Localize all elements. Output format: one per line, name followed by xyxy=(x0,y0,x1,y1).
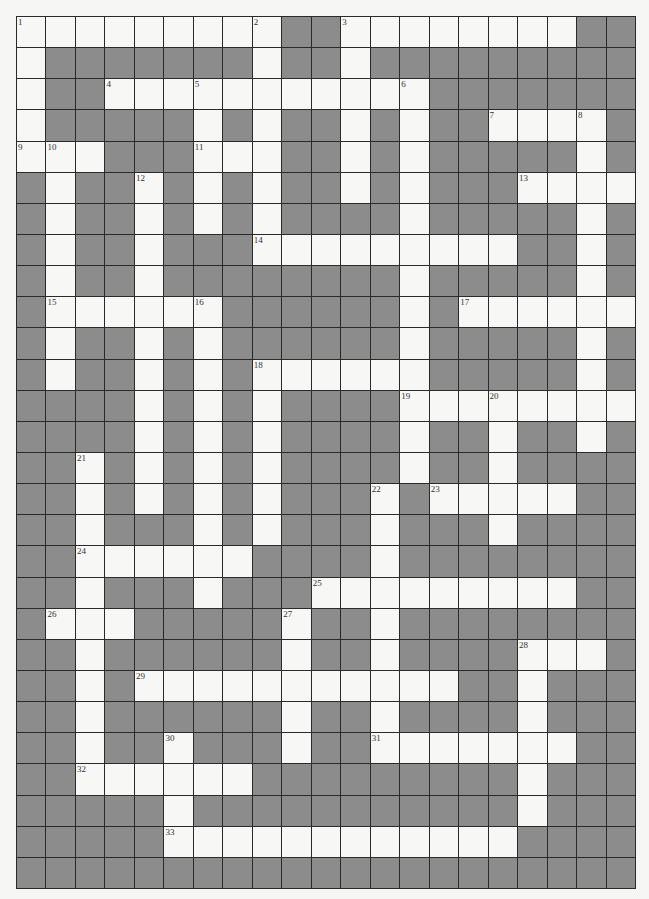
answer-cell[interactable] xyxy=(400,360,428,390)
answer-cell[interactable] xyxy=(105,297,133,327)
answer-cell[interactable] xyxy=(135,764,163,794)
answer-cell[interactable] xyxy=(489,453,517,483)
answer-cell[interactable] xyxy=(518,297,546,327)
answer-cell[interactable] xyxy=(518,484,546,514)
answer-cell[interactable] xyxy=(430,827,458,857)
answer-cell[interactable] xyxy=(253,48,281,78)
answer-cell[interactable] xyxy=(430,671,458,701)
answer-cell[interactable] xyxy=(489,422,517,452)
answer-cell[interactable] xyxy=(400,173,428,203)
answer-cell[interactable] xyxy=(400,422,428,452)
answer-cell[interactable] xyxy=(400,142,428,172)
answer-cell[interactable] xyxy=(548,578,576,608)
answer-cell[interactable] xyxy=(371,17,399,47)
answer-cell[interactable] xyxy=(341,671,369,701)
answer-cell[interactable] xyxy=(430,733,458,763)
answer-cell[interactable]: 24 xyxy=(76,546,104,576)
answer-cell[interactable] xyxy=(135,422,163,452)
answer-cell[interactable] xyxy=(489,827,517,857)
answer-cell[interactable] xyxy=(312,235,340,265)
answer-cell[interactable] xyxy=(164,671,192,701)
answer-cell[interactable] xyxy=(577,391,605,421)
answer-cell[interactable] xyxy=(489,235,517,265)
answer-cell[interactable] xyxy=(400,733,428,763)
answer-cell[interactable] xyxy=(518,764,546,794)
answer-cell[interactable] xyxy=(135,297,163,327)
answer-cell[interactable] xyxy=(17,48,45,78)
answer-cell[interactable] xyxy=(76,609,104,639)
answer-cell[interactable] xyxy=(46,266,74,296)
answer-cell[interactable] xyxy=(253,79,281,109)
answer-cell[interactable] xyxy=(253,484,281,514)
answer-cell[interactable] xyxy=(400,578,428,608)
answer-cell[interactable] xyxy=(253,515,281,545)
answer-cell[interactable]: 16 xyxy=(194,297,222,327)
answer-cell[interactable] xyxy=(400,328,428,358)
answer-cell[interactable] xyxy=(371,360,399,390)
answer-cell[interactable] xyxy=(548,173,576,203)
answer-cell[interactable] xyxy=(164,546,192,576)
answer-cell[interactable] xyxy=(400,827,428,857)
answer-cell[interactable] xyxy=(459,827,487,857)
answer-cell[interactable] xyxy=(135,360,163,390)
answer-cell[interactable] xyxy=(341,48,369,78)
answer-cell[interactable]: 21 xyxy=(76,453,104,483)
answer-cell[interactable] xyxy=(194,827,222,857)
answer-cell[interactable] xyxy=(459,235,487,265)
answer-cell[interactable] xyxy=(489,484,517,514)
answer-cell[interactable] xyxy=(518,110,546,140)
answer-cell[interactable] xyxy=(46,360,74,390)
answer-cell[interactable] xyxy=(253,827,281,857)
answer-cell[interactable]: 13 xyxy=(518,173,546,203)
answer-cell[interactable] xyxy=(400,671,428,701)
answer-cell[interactable] xyxy=(76,484,104,514)
answer-cell[interactable] xyxy=(135,484,163,514)
answer-cell[interactable] xyxy=(548,484,576,514)
answer-cell[interactable] xyxy=(105,17,133,47)
answer-cell[interactable] xyxy=(577,422,605,452)
answer-cell[interactable]: 8 xyxy=(577,110,605,140)
answer-cell[interactable] xyxy=(577,297,605,327)
answer-cell[interactable] xyxy=(17,79,45,109)
answer-cell[interactable] xyxy=(430,578,458,608)
answer-cell[interactable] xyxy=(371,671,399,701)
answer-cell[interactable] xyxy=(518,391,546,421)
answer-cell[interactable] xyxy=(282,702,310,732)
answer-cell[interactable]: 26 xyxy=(46,609,74,639)
answer-cell[interactable] xyxy=(76,640,104,670)
answer-cell[interactable] xyxy=(607,297,635,327)
answer-cell[interactable] xyxy=(253,142,281,172)
answer-cell[interactable] xyxy=(46,173,74,203)
answer-cell[interactable] xyxy=(76,671,104,701)
answer-cell[interactable] xyxy=(135,391,163,421)
answer-cell[interactable] xyxy=(489,297,517,327)
answer-cell[interactable] xyxy=(371,609,399,639)
answer-cell[interactable]: 1 xyxy=(17,17,45,47)
answer-cell[interactable] xyxy=(164,764,192,794)
answer-cell[interactable] xyxy=(312,79,340,109)
answer-cell[interactable] xyxy=(577,142,605,172)
answer-cell[interactable] xyxy=(135,328,163,358)
answer-cell[interactable] xyxy=(46,204,74,234)
answer-cell[interactable] xyxy=(577,328,605,358)
answer-cell[interactable] xyxy=(577,360,605,390)
answer-cell[interactable] xyxy=(164,17,192,47)
answer-cell[interactable] xyxy=(194,764,222,794)
answer-cell[interactable] xyxy=(194,360,222,390)
answer-cell[interactable] xyxy=(253,110,281,140)
answer-cell[interactable] xyxy=(253,204,281,234)
answer-cell[interactable] xyxy=(194,17,222,47)
answer-cell[interactable] xyxy=(548,17,576,47)
answer-cell[interactable] xyxy=(312,827,340,857)
answer-cell[interactable] xyxy=(518,702,546,732)
answer-cell[interactable]: 6 xyxy=(400,79,428,109)
answer-cell[interactable] xyxy=(194,515,222,545)
answer-cell[interactable] xyxy=(341,110,369,140)
answer-cell[interactable] xyxy=(459,733,487,763)
answer-cell[interactable] xyxy=(371,702,399,732)
answer-cell[interactable] xyxy=(489,17,517,47)
answer-cell[interactable] xyxy=(548,640,576,670)
answer-cell[interactable]: 31 xyxy=(371,733,399,763)
answer-cell[interactable] xyxy=(400,204,428,234)
answer-cell[interactable] xyxy=(282,827,310,857)
